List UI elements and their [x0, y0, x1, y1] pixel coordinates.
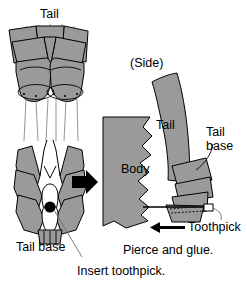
side-view-assembly — [103, 73, 221, 233]
tail-lobe-right — [50, 58, 84, 102]
label-body: Body — [121, 162, 150, 176]
label-side-view: (Side) — [130, 56, 163, 70]
leader-line-icon-toothpick — [213, 208, 221, 220]
label-pierce-and-glue: Pierce and glue. — [123, 243, 213, 257]
label-tail-top: Tail — [40, 7, 59, 21]
label-tail-base-right-line1: Tail — [206, 125, 233, 139]
label-toothpick: Toothpick — [188, 220, 241, 234]
label-tail-base-right-line2: base — [206, 139, 233, 153]
tailbase-center-outlines — [40, 140, 60, 178]
instruction-diagram: Tail (Side) Tail Body Tail base Toothpic… — [0, 0, 247, 285]
label-tail-base-left: Tail base — [16, 240, 65, 254]
toothpick-end — [204, 204, 213, 211]
left-tail-assembly — [9, 24, 88, 141]
label-tail-base-right: Tail base — [206, 125, 233, 153]
tail-lobe-left — [16, 58, 51, 102]
label-tail-side: Tail — [156, 118, 175, 132]
assembly-connector-lines — [24, 99, 78, 141]
label-insert-toothpick: Insert toothpick. — [77, 264, 165, 278]
left-arrow-icon — [150, 222, 185, 233]
black-dot-icon — [44, 201, 55, 212]
